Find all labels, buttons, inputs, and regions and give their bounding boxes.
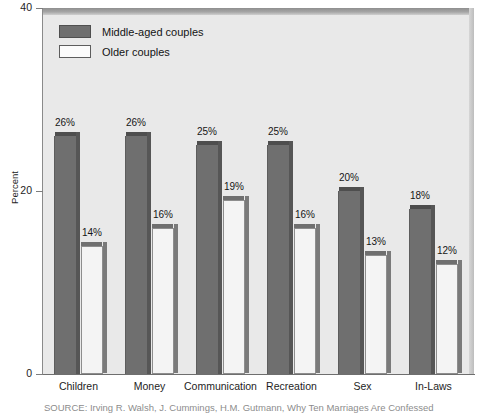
bar-value-label: 16%	[144, 209, 182, 220]
y-tick-40	[36, 8, 43, 9]
bar-communication-middle-aged	[196, 145, 218, 374]
bar-top-face	[294, 224, 315, 228]
bar-value-label: 19%	[215, 181, 253, 192]
bar-side-face	[458, 260, 462, 373]
bar-top-face	[365, 251, 386, 255]
bar-recreation-middle-aged	[267, 145, 289, 374]
bar-value-label: 18%	[401, 190, 439, 201]
bar-side-face	[316, 224, 320, 373]
bar-top-face	[55, 132, 76, 136]
legend-label-older-couples: Older couples	[102, 46, 170, 58]
plot-frame-top-shadow	[43, 8, 474, 15]
bar-top-face	[410, 205, 431, 209]
bar-sex-older	[365, 255, 387, 374]
bar-top-face	[126, 132, 147, 136]
bar-recreation-older	[294, 228, 316, 374]
bar-side-face	[289, 141, 293, 374]
bar-value-label: 25%	[259, 126, 297, 137]
bar-children-middle-aged	[54, 136, 76, 374]
bar-money-middle-aged	[125, 136, 147, 374]
bar-value-label: 16%	[286, 209, 324, 220]
bar-value-label: 25%	[188, 126, 226, 137]
bar-value-label: 20%	[330, 172, 368, 183]
bar-value-label: 13%	[357, 236, 395, 247]
bar-side-face	[245, 196, 249, 373]
bar-side-face	[360, 187, 364, 374]
bar-value-label: 14%	[73, 227, 111, 238]
bar-children-older	[81, 246, 103, 374]
source-note: SOURCE: Irving R. Walsh, J. Cummings, H.…	[44, 402, 484, 413]
bar-top-face	[339, 187, 360, 191]
bar-side-face	[387, 251, 391, 373]
bar-side-face	[103, 242, 107, 373]
bar-side-face	[431, 205, 435, 374]
bar-top-face	[268, 141, 289, 145]
y-tick-label-0: 0	[26, 367, 32, 379]
bar-side-face	[76, 132, 80, 374]
legend-label-middle-aged-couples: Middle-aged couples	[102, 26, 204, 38]
legend-swatch-middle-aged-couples	[59, 25, 91, 38]
y-tick-label-40: 40	[20, 1, 32, 13]
bar-communication-older	[223, 200, 245, 374]
legend-swatch-older-couples	[59, 45, 91, 58]
bar-value-label: 26%	[117, 117, 155, 128]
bar-top-face	[152, 224, 173, 228]
bar-value-label: 12%	[428, 245, 466, 256]
plot-frame-right-shadow	[469, 8, 474, 374]
bar-in-laws-middle-aged	[409, 209, 431, 374]
bar-side-face	[218, 141, 222, 374]
y-tick-label-20: 20	[20, 184, 32, 196]
bar-side-face	[174, 224, 178, 373]
bar-sex-middle-aged	[338, 191, 360, 374]
bar-value-label: 26%	[46, 117, 84, 128]
bar-side-face	[147, 132, 151, 374]
legend-item-older-couples: Older couples	[59, 43, 204, 60]
bar-money-older	[152, 228, 174, 374]
y-axis-title: Percent	[9, 158, 20, 218]
legend-item-middle-aged-couples: Middle-aged couples	[59, 23, 204, 40]
x-axis-line	[42, 374, 475, 375]
bar-top-face	[436, 260, 457, 264]
bar-top-face	[223, 196, 244, 200]
category-label-in-laws: In-Laws	[386, 380, 481, 392]
bar-in-laws-older	[436, 264, 458, 374]
bar-top-face	[81, 242, 102, 246]
y-tick-0	[36, 374, 43, 375]
chart-legend: Middle-aged couples Older couples	[59, 23, 204, 63]
y-tick-20	[36, 191, 43, 192]
bar-top-face	[197, 141, 218, 145]
